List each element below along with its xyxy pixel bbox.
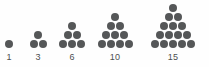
dot <box>178 40 186 48</box>
group-label-10: 10 <box>110 53 120 62</box>
dot <box>160 22 168 30</box>
dot <box>169 40 177 48</box>
dot <box>183 31 191 39</box>
dot <box>165 31 173 39</box>
dot <box>160 40 168 48</box>
dot <box>151 40 159 48</box>
dot <box>156 31 164 39</box>
dot <box>187 40 195 48</box>
dot <box>169 22 177 30</box>
dot <box>174 31 182 39</box>
dot <box>178 22 186 30</box>
group-label-3: 3 <box>35 53 40 62</box>
group-label-6: 6 <box>69 53 74 62</box>
dot <box>174 13 182 21</box>
group-label-1: 1 <box>6 53 11 62</box>
dot <box>165 13 173 21</box>
triangular-numbers-figure: 1361015 <box>0 0 209 67</box>
group-label-15: 15 <box>168 53 178 62</box>
dot <box>169 4 177 12</box>
